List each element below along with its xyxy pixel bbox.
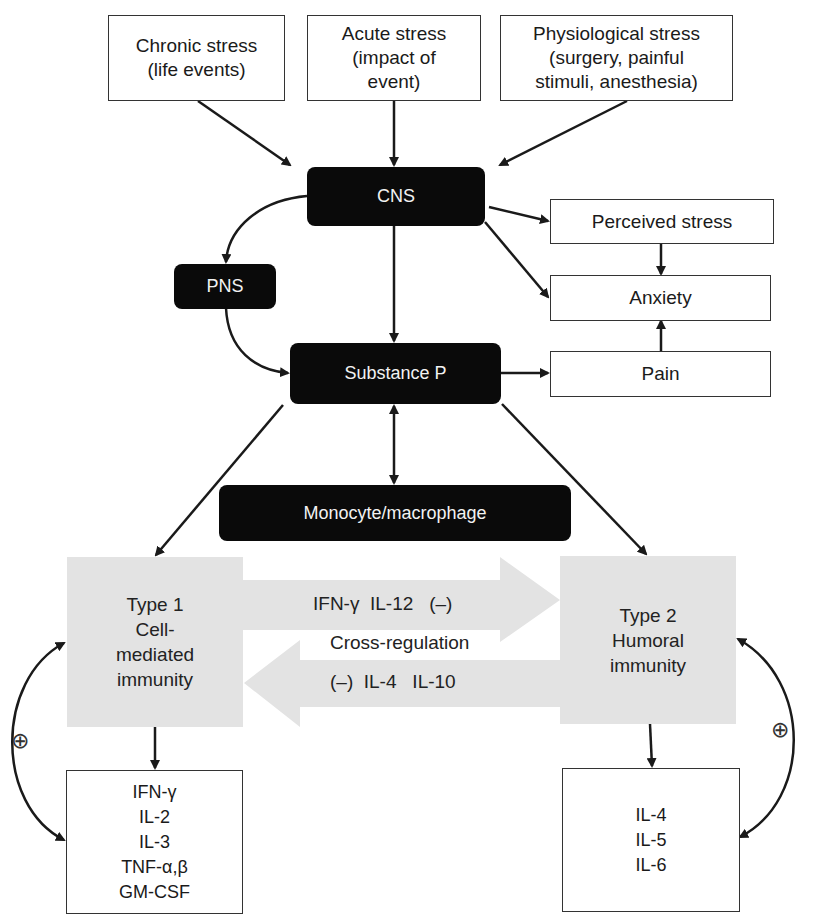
chronic-stress-line1: Chronic stress	[136, 34, 257, 58]
cross-regulation-bottom-label: (–) IL-4 IL-10	[330, 671, 456, 693]
left-positive-feedback-icon: ⊕	[11, 728, 29, 754]
type1-cytokines-box: IFN-γ IL-2 IL-3 TNF-α,β GM-CSF	[66, 770, 243, 914]
type1-line4: immunity	[117, 667, 193, 692]
monocyte-macrophage-node: Monocyte/macrophage	[219, 485, 571, 541]
chronic-stress-box: Chronic stress (life events)	[108, 15, 285, 101]
type1-line3: mediated	[116, 642, 194, 667]
acute-stress-line3: event)	[368, 70, 421, 94]
type2-immunity-block: Type 2 Humoral immunity	[560, 556, 736, 724]
pns-node: PNS	[174, 264, 276, 309]
type1-line2: Cell-	[135, 617, 174, 642]
type1-cytokine: IFN-γ	[133, 780, 177, 805]
physiological-stress-line2: (surgery, painful	[549, 46, 684, 70]
type2-cytokines-box: IL-4 IL-5 IL-6	[562, 768, 740, 912]
right-positive-feedback-icon: ⊕	[771, 717, 789, 743]
type1-cytokine: GM-CSF	[119, 880, 190, 905]
type2-cytokine: IL-4	[635, 803, 666, 828]
acute-stress-box: Acute stress (impact of event)	[307, 15, 481, 101]
type2-line1: Type 2	[619, 603, 676, 628]
type1-immunity-block: Type 1 Cell- mediated immunity	[67, 557, 243, 727]
chronic-stress-line2: (life events)	[147, 58, 245, 82]
cross-regulation-top-label: IFN-γ IL-12 (–)	[313, 593, 452, 615]
type2-cytokine: IL-5	[635, 828, 666, 853]
type1-line1: Type 1	[126, 592, 183, 617]
type1-cytokine: TNF-α,β	[121, 855, 188, 880]
perceived-stress-box: Perceived stress	[550, 199, 774, 244]
type2-cytokine: IL-6	[635, 853, 666, 878]
type1-cytokine: IL-3	[139, 830, 170, 855]
anxiety-box: Anxiety	[550, 275, 771, 321]
type1-cytokine: IL-2	[139, 805, 170, 830]
cns-node: CNS	[307, 167, 485, 226]
substance-p-node: Substance P	[290, 343, 501, 404]
cross-regulation-label: Cross-regulation	[330, 632, 469, 654]
pain-box: Pain	[550, 351, 771, 397]
acute-stress-line2: (impact of	[352, 46, 435, 70]
type2-line3: immunity	[610, 653, 686, 678]
physiological-stress-box: Physiological stress (surgery, painful s…	[500, 15, 733, 101]
physiological-stress-line3: stimuli, anesthesia)	[535, 70, 698, 94]
acute-stress-line1: Acute stress	[342, 22, 447, 46]
type2-line2: Humoral	[612, 628, 684, 653]
physiological-stress-line1: Physiological stress	[533, 22, 700, 46]
